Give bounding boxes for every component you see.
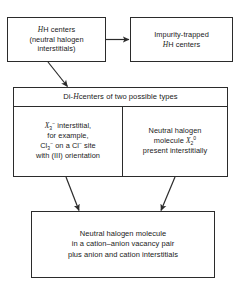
node-di-h-x2-molecule: Neutral halogenmolecule X20present inter… [123, 106, 227, 176]
node-di-h-x3-interstitial: X3− interstitial,for example,Cl3− on a C… [14, 106, 123, 176]
bottom-line1-text: Neutral halogen molecule [80, 229, 166, 238]
di-h-body: X3− interstitial,for example,Cl3− on a C… [14, 106, 227, 176]
arrow-di-h-right-to-bottom [161, 177, 175, 211]
di-h-left-label: X3− interstitial,for example,Cl3− on a C… [32, 121, 104, 160]
node-h-centers-label: HH centers(neutral halogeninterstitials) [25, 25, 87, 53]
di-h-right-line3-text: present interstitially [143, 146, 207, 155]
di-h-header-suffix: centers of two possible types [79, 92, 178, 102]
node-impurity-trapped-label: Impurity-trappedHH centers [150, 30, 213, 49]
arrow-h-centers-to-di-h [48, 62, 68, 87]
h-centers-line3-text: interstitials) [37, 44, 75, 53]
node-neutral-halogen-vacancy-pair: Neutral halogen moleculein a cation–anio… [31, 211, 215, 278]
node-bottom-label: Neutral halogen moleculein a cation–anio… [64, 229, 182, 260]
di-h-right-line2-prefix: molecule [154, 136, 186, 145]
impurity-line1-text: Impurity-trapped [154, 30, 209, 39]
di-h-right-label: Neutral halogenmolecule X20present inter… [139, 126, 211, 155]
h-centers-line1-text: H centers [43, 25, 75, 34]
node-di-h-centers: Di-H centers of two possible types X3− i… [13, 87, 228, 177]
di-h-right-sup: 0 [193, 135, 196, 141]
impurity-line2-text: H centers [168, 40, 200, 49]
di-h-header: Di-H centers of two possible types [14, 88, 227, 107]
di-h-left-line1-rest: interstitial, [55, 121, 91, 130]
bottom-line3-text: plus anion and cation interstitials [68, 250, 178, 259]
arrow-di-h-left-to-bottom [66, 177, 79, 211]
h-centers-line2-text: (neutral halogen [29, 35, 83, 44]
flowchart-diagram: HH centers(neutral halogeninterstitials)… [0, 0, 245, 286]
node-h-centers: HH centers(neutral halogeninterstitials) [7, 17, 106, 62]
bottom-line2-text: in a cation–anion vacancy pair [72, 239, 174, 248]
di-h-left-line4-text: with (III) orientation [36, 151, 100, 160]
di-h-left-line2-text: for example, [47, 131, 88, 140]
di-h-header-prefix: Di- [63, 92, 73, 102]
node-impurity-trapped-h-centers: Impurity-trappedHH centers [130, 17, 233, 62]
